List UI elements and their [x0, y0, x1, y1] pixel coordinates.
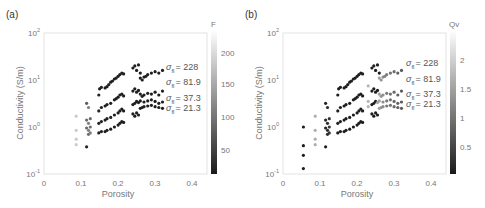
data-point	[142, 105, 145, 108]
figure: (a) 102 101 100 10-1 0 0.1 0.2 0.3 0.4 P…	[0, 0, 485, 208]
data-point	[137, 63, 140, 66]
data-point	[302, 167, 305, 170]
data-point	[336, 109, 339, 112]
data-point	[380, 78, 383, 81]
svg-text:101: 101	[267, 74, 279, 85]
data-point	[328, 125, 331, 128]
data-point	[157, 72, 160, 75]
data-point	[75, 129, 78, 132]
data-point	[339, 86, 342, 89]
svg-text:0: 0	[42, 179, 47, 188]
data-point	[372, 64, 375, 67]
data-point	[154, 100, 157, 103]
svg-text:100: 100	[28, 121, 40, 132]
panel-b: (b) 102 101 100 10-1 0 0.1 0.2 0.3 0.4 P…	[245, 9, 472, 199]
data-point	[328, 131, 331, 134]
svg-text:0.1: 0.1	[314, 179, 326, 188]
data-point	[381, 100, 384, 103]
data-point	[89, 125, 92, 128]
data-point	[339, 120, 342, 123]
panel-a-x-ticks: 0 0.1 0.2 0.3 0.4	[42, 179, 198, 188]
panel-a-y-label: Conductivity (S/m)	[15, 66, 25, 140]
data-point	[324, 102, 327, 105]
svg-text:0.2: 0.2	[351, 179, 363, 188]
data-point	[154, 91, 157, 94]
data-point	[97, 109, 100, 112]
data-point	[150, 93, 153, 96]
data-point	[142, 100, 145, 103]
data-point	[105, 103, 108, 106]
panel-b-x-label: Porosity	[341, 189, 374, 199]
data-point	[97, 93, 100, 96]
data-point	[122, 72, 125, 75]
svg-text:101: 101	[28, 74, 40, 85]
panel-b-x-ticks: 0 0.1 0.2 0.3 0.4	[281, 179, 437, 188]
data-point	[105, 129, 108, 132]
panel-b-y-ticks: 102 101 100 10-1	[265, 27, 279, 179]
data-point	[109, 128, 112, 131]
data-point	[339, 106, 342, 109]
data-point	[324, 119, 327, 122]
svg-text:1: 1	[460, 114, 465, 123]
data-point	[314, 129, 317, 132]
data-point	[85, 102, 88, 105]
data-point	[396, 106, 399, 109]
data-point	[314, 143, 317, 146]
panel-a-y-ticks: 102 101 100 10-1	[26, 27, 40, 179]
data-point	[376, 89, 379, 92]
data-point	[85, 145, 88, 148]
data-point	[328, 117, 331, 120]
data-point	[389, 72, 392, 75]
svg-text:10-1: 10-1	[265, 168, 279, 179]
data-point	[372, 87, 375, 90]
data-point	[133, 87, 136, 90]
data-point	[146, 99, 149, 102]
data-point	[109, 102, 112, 105]
panel-b-y-label: Conductivity (S/m)	[254, 66, 264, 140]
data-point	[378, 99, 381, 102]
data-point	[154, 70, 157, 73]
data-point	[376, 63, 379, 66]
panel-a: (a) 102 101 100 10-1 0 0.1 0.2 0.3 0.4 P…	[6, 9, 235, 199]
data-point	[302, 125, 305, 128]
data-point	[376, 113, 379, 116]
data-point	[400, 90, 403, 93]
svg-text:0.3: 0.3	[149, 179, 161, 188]
svg-text:2: 2	[460, 56, 465, 65]
data-point	[336, 93, 339, 96]
data-point	[348, 116, 351, 119]
data-point	[137, 113, 140, 116]
data-point	[400, 107, 403, 110]
data-point	[87, 106, 90, 109]
data-point	[339, 130, 342, 133]
data-point	[150, 104, 153, 107]
data-point	[109, 116, 112, 119]
data-point	[113, 113, 116, 116]
data-point	[137, 89, 140, 92]
panel-b-label: (b)	[245, 9, 257, 20]
data-point	[385, 99, 388, 102]
data-point	[361, 94, 364, 97]
data-point	[348, 128, 351, 131]
data-point	[139, 72, 142, 75]
data-point	[146, 73, 149, 76]
data-point	[154, 105, 157, 108]
data-point	[100, 120, 103, 123]
data-point	[396, 72, 399, 75]
data-point	[352, 125, 355, 128]
svg-text:0.4: 0.4	[186, 179, 198, 188]
data-point	[314, 115, 317, 118]
svg-text:100: 100	[267, 121, 279, 132]
data-point	[389, 93, 392, 96]
data-point	[122, 109, 125, 112]
svg-text:1.5: 1.5	[460, 85, 472, 94]
svg-text:0.3: 0.3	[388, 179, 400, 188]
panel-a-label: (a)	[6, 9, 18, 20]
data-point	[393, 91, 396, 94]
data-point	[302, 144, 305, 147]
data-point	[389, 104, 392, 107]
data-point	[133, 64, 136, 67]
svg-text:0.5: 0.5	[460, 143, 472, 152]
panel-a-colorbar	[211, 30, 217, 174]
data-point	[142, 93, 145, 96]
